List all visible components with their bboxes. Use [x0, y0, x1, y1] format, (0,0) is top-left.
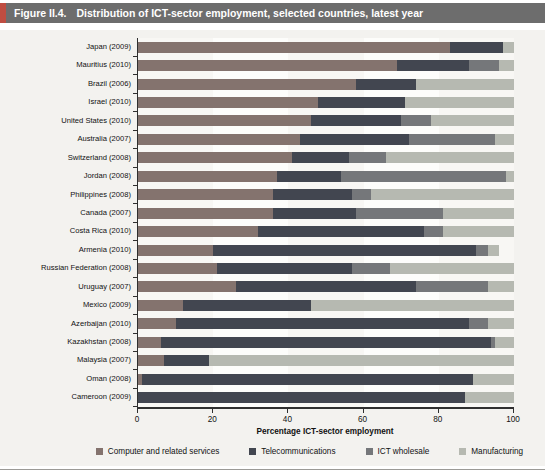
figure-caption: Distribution of ICT-sector employment, s…: [77, 7, 424, 19]
y-axis-tick: [133, 314, 137, 315]
bar-row: Oman (2008): [138, 370, 514, 388]
bar-segment-manufacturing: [495, 134, 514, 145]
bar-segment-manufacturing: [443, 226, 514, 237]
x-axis-tick-label: 20: [197, 415, 227, 424]
bar-segment-ict-wholesale: [469, 318, 488, 329]
bar-row: Jordan (2008): [138, 167, 514, 185]
stacked-bar: [138, 42, 514, 53]
bar-segment-computer-and-related-services: [138, 245, 213, 256]
legend-item: ICT wholesale: [366, 447, 430, 456]
legend-item: Computer and related services: [96, 447, 220, 456]
y-axis-tick: [133, 296, 137, 297]
stacked-bar: [138, 97, 514, 108]
bar-segment-telecommunications: [138, 392, 465, 403]
x-axis-tick: [287, 409, 288, 413]
bar-segment-manufacturing: [371, 189, 514, 200]
category-label: Oman (2008): [86, 370, 131, 388]
bar-segment-telecommunications: [311, 115, 401, 126]
bar-segment-telecommunications: [277, 171, 341, 182]
bar-row: Cameroon (2009): [138, 388, 514, 406]
stacked-bar: [138, 355, 514, 366]
bar-segment-computer-and-related-services: [138, 355, 164, 366]
bar-segment-computer-and-related-services: [138, 97, 318, 108]
bar-segment-telecommunications: [161, 337, 492, 348]
bar-segment-computer-and-related-services: [138, 208, 273, 219]
y-axis-tick: [133, 259, 137, 260]
bar-row: Uruguay (2007): [138, 278, 514, 296]
bar-segment-manufacturing: [503, 42, 514, 53]
x-axis-tick-label: 40: [272, 415, 302, 424]
bar-segment-computer-and-related-services: [138, 318, 176, 329]
bar-segment-telecommunications: [142, 374, 473, 385]
bar-row: Australia (2007): [138, 130, 514, 148]
y-axis-tick: [133, 277, 137, 278]
bar-segment-computer-and-related-services: [138, 300, 183, 311]
bar-row: Malaysia (2007): [138, 351, 514, 369]
bar-segment-telecommunications: [236, 281, 416, 292]
bar-segment-telecommunications: [273, 189, 352, 200]
legend: Computer and related servicesTelecommuni…: [0, 447, 545, 456]
category-label: Brazil (2006): [88, 75, 131, 93]
x-axis-tick: [513, 409, 514, 413]
bar-segment-telecommunications: [300, 134, 409, 145]
category-label: Mauritius (2010): [76, 56, 131, 74]
bar-segment-ict-wholesale: [349, 152, 387, 163]
category-label: Australia (2007): [77, 130, 131, 148]
bar-row: United States (2010): [138, 112, 514, 130]
y-axis-tick: [133, 56, 137, 57]
bar-segment-telecommunications: [356, 79, 416, 90]
category-label: Canada (2007): [80, 204, 131, 222]
bar-segment-manufacturing: [499, 60, 514, 71]
bar-segment-manufacturing: [431, 115, 514, 126]
x-axis-tick-label: 0: [122, 415, 152, 424]
bar-segment-ict-wholesale: [476, 245, 487, 256]
bar-segment-computer-and-related-services: [138, 171, 277, 182]
x-axis-tick: [137, 409, 138, 413]
category-label: Jordan (2008): [84, 167, 131, 185]
title-accent-mark: [0, 3, 6, 23]
y-axis-tick: [133, 130, 137, 131]
bar-segment-manufacturing: [506, 171, 514, 182]
legend-label: Manufacturing: [471, 447, 523, 456]
bar-segment-manufacturing: [465, 392, 514, 403]
bar-row: Kazakhstan (2008): [138, 333, 514, 351]
y-axis-tick: [133, 93, 137, 94]
bar-segment-telecommunications: [217, 263, 352, 274]
bar-segment-manufacturing: [443, 208, 514, 219]
bar-segment-ict-wholesale: [341, 171, 506, 182]
bar-segment-computer-and-related-services: [138, 60, 397, 71]
bar-segment-computer-and-related-services: [138, 79, 356, 90]
bar-segment-computer-and-related-services: [138, 226, 258, 237]
stacked-bar: [138, 245, 499, 256]
category-label: Uruguay (2007): [78, 278, 131, 296]
bar-segment-manufacturing: [488, 245, 499, 256]
bar-segment-computer-and-related-services: [138, 263, 217, 274]
y-axis-tick: [133, 406, 137, 407]
legend-item: Manufacturing: [459, 447, 523, 456]
bar-row: Philippines (2008): [138, 186, 514, 204]
category-label: Japan (2009): [86, 38, 131, 56]
y-axis-tick: [133, 333, 137, 334]
bar-segment-ict-wholesale: [352, 189, 371, 200]
y-axis-tick: [133, 74, 137, 75]
bar-segment-ict-wholesale: [356, 208, 442, 219]
x-axis-tick-label: 80: [423, 415, 453, 424]
bar-row: Brazil (2006): [138, 75, 514, 93]
stacked-bar: [138, 374, 514, 385]
bar-segment-telecommunications: [318, 97, 404, 108]
category-label: Costa Rica (2010): [70, 222, 131, 240]
bar-segment-computer-and-related-services: [138, 281, 236, 292]
category-label: Russian Federation (2008): [41, 259, 131, 277]
bar-segment-telecommunications: [397, 60, 468, 71]
bar-segment-manufacturing: [416, 79, 514, 90]
bar-row: Costa Rica (2010): [138, 222, 514, 240]
stacked-bar: [138, 208, 514, 219]
bar-row: Japan (2009): [138, 38, 514, 56]
y-axis-tick: [133, 369, 137, 370]
plot-area: Japan (2009)Mauritius (2010)Brazil (2006…: [137, 38, 514, 409]
x-axis-tick-label: 100: [498, 415, 528, 424]
bar-segment-manufacturing: [311, 300, 514, 311]
bar-row: Azerbaijan (2010): [138, 315, 514, 333]
stacked-bar: [138, 152, 514, 163]
bar-segment-manufacturing: [495, 337, 514, 348]
